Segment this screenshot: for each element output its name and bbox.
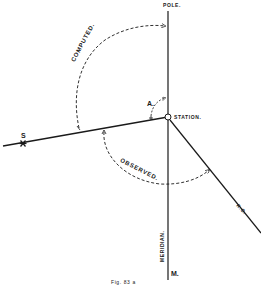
star-icon: [20, 141, 27, 147]
meridian-label: MERIDIAN.: [160, 230, 165, 262]
meridian-end-label: M.: [171, 270, 179, 277]
star-line: [3, 118, 165, 147]
station-marker: [165, 114, 171, 120]
computed-arc: [76, 25, 165, 128]
angle-a-label: A.: [147, 100, 154, 107]
station-label: STATION.: [174, 115, 201, 120]
star-label: S: [21, 132, 26, 139]
figure-caption: Fig. 83 a: [111, 280, 136, 285]
pole-label: POLE.: [163, 3, 181, 8]
reference-object-line: [170, 120, 261, 233]
azimuth-diagram: [0, 0, 261, 285]
